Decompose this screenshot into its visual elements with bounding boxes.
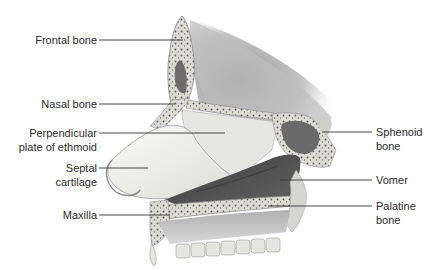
label-sphenoid-bone: Sphenoid bone [376, 125, 423, 153]
label-maxilla: Maxilla [63, 208, 97, 222]
label-vomer: Vomer [376, 173, 408, 187]
nasal-septum-diagram: Frontal bone Nasal bone Perpendicular pl… [0, 0, 435, 270]
label-palatine-bone: Palatine bone [376, 199, 416, 227]
label-frontal-bone: Frontal bone [35, 33, 97, 47]
label-perpendicular-plate: Perpendicular plate of ethmoid [19, 126, 97, 154]
label-septal-cartilage: Septal cartilage [55, 161, 97, 189]
label-nasal-bone: Nasal bone [41, 97, 97, 111]
